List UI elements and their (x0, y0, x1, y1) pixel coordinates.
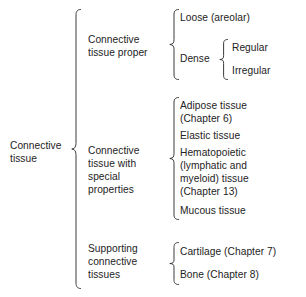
brace-connective-tissue-special-properties (169, 97, 179, 220)
brace-connective-tissue-proper (169, 9, 179, 80)
node-dense-regular: Regular (232, 41, 302, 54)
root-node-connective-tissue: Connective tissue (10, 139, 72, 165)
node-dense: Dense (180, 52, 218, 65)
brace-root (71, 9, 82, 289)
brace-dense (219, 39, 228, 80)
node-mucous-tissue: Mucous tissue (180, 204, 300, 217)
brace-supporting-connective-tissues (169, 242, 179, 285)
node-connective-tissue-proper: Connective tissue proper (88, 33, 166, 59)
node-adipose-tissue: Adipose tissue (Chapter 6) (180, 99, 300, 125)
node-loose-areolar: Loose (areolar) (180, 11, 304, 24)
node-connective-tissue-special-properties: Connective tissue with special propertie… (88, 144, 166, 196)
node-dense-irregular: Irregular (232, 64, 302, 77)
node-elastic-tissue: Elastic tissue (180, 129, 300, 142)
node-cartilage: Cartilage (Chapter 7) (180, 245, 304, 258)
node-hematopoietic-tissue: Hematopoietic (lymphatic and myeloid) ti… (180, 146, 300, 198)
node-supporting-connective-tissues-label: Supporting connective tissues (88, 242, 166, 281)
node-bone: Bone (Chapter 8) (180, 268, 304, 281)
connective-tissue-classification-diagram: Connective tissue Connective tissue prop… (0, 0, 306, 297)
